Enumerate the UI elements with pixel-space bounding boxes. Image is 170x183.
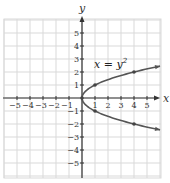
y-tick-label: −3 — [67, 133, 79, 142]
y-tick-label: −2 — [67, 120, 79, 129]
y-tick-label: 5 — [74, 29, 79, 38]
y-tick-label: 4 — [74, 42, 79, 51]
x-tick-label: −3 — [35, 101, 47, 110]
y-tick-label: −1 — [67, 107, 79, 116]
y-tick-label: 2 — [74, 68, 79, 77]
x-tick-label: 2 — [105, 101, 110, 110]
y-tick-label: −5 — [67, 159, 79, 168]
x-tick-label: 5 — [144, 101, 149, 110]
data-point — [80, 96, 84, 100]
x-tick-label: 1 — [92, 101, 97, 110]
x-tick-label: −5 — [9, 101, 21, 110]
x-tick-label: −4 — [22, 101, 34, 110]
y-axis-label: y — [78, 2, 86, 15]
data-point — [132, 122, 136, 126]
y-tick-label: −4 — [67, 146, 79, 155]
graph: −5−4−3−2−112345−5−4−3−2−112345 x y x = y… — [0, 0, 170, 183]
data-point — [93, 83, 97, 87]
x-axis-label: x — [163, 92, 170, 105]
x-tick-label: 4 — [131, 101, 136, 110]
equation-label: x = y2 — [94, 57, 128, 71]
x-axis-arrow-icon — [154, 96, 160, 101]
data-point — [93, 109, 97, 113]
x-tick-label: 3 — [118, 101, 123, 110]
y-tick-label: 3 — [74, 55, 79, 64]
y-tick-label: 1 — [74, 81, 79, 90]
x-tick-label: −2 — [48, 101, 60, 110]
data-point — [132, 70, 136, 74]
